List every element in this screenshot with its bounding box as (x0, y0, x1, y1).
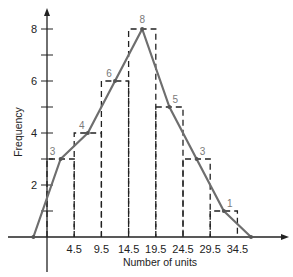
data-point (222, 209, 226, 213)
point-label: 3 (50, 146, 56, 157)
y-tick-label: 4 (31, 127, 37, 139)
point-label: 6 (106, 68, 112, 79)
x-tick-label: 24.5 (172, 243, 193, 255)
x-axis-arrow-icon (281, 234, 289, 240)
data-point (113, 79, 117, 83)
point-label: 4 (79, 120, 85, 131)
histogram-bar (47, 159, 74, 237)
polygon-line (33, 29, 251, 237)
x-tick-label: 34.5 (227, 243, 248, 255)
x-tick-label: 4.5 (67, 243, 82, 255)
y-axis-title: Frequency (12, 106, 24, 156)
y-tick-label: 6 (31, 75, 37, 87)
x-axis-title: Number of units (123, 256, 197, 268)
y-tick-label: 2 (31, 179, 37, 191)
data-point (140, 27, 144, 31)
point-labels: 3468531 (50, 14, 233, 209)
x-tick-label: 19.5 (145, 243, 166, 255)
histogram-bar (74, 133, 101, 237)
data-point (249, 235, 253, 239)
histogram-bar (183, 159, 210, 237)
x-tick-label: 9.5 (94, 243, 109, 255)
frequency-polygon-chart: 3468531 24684.59.514.519.524.529.534.5 N… (0, 0, 293, 277)
tick-labels: 24684.59.514.519.524.529.534.5 (31, 23, 248, 255)
y-tick-label: 8 (31, 23, 37, 35)
data-point (59, 157, 63, 161)
x-tick-label: 29.5 (199, 243, 220, 255)
data-point (167, 105, 171, 109)
data-point (86, 131, 90, 135)
point-label: 5 (173, 94, 179, 105)
x-tick-label: 14.5 (118, 243, 139, 255)
frequency-polygon-line (31, 27, 253, 239)
histogram-bar (101, 81, 128, 237)
data-point (195, 157, 199, 161)
point-label: 1 (227, 198, 233, 209)
y-axis-arrow-icon (44, 8, 50, 16)
point-label: 8 (139, 14, 145, 25)
data-point (31, 235, 35, 239)
point-label: 3 (200, 146, 206, 157)
histogram-bar (210, 211, 237, 237)
histogram-bar (129, 29, 156, 237)
histogram-bars (47, 29, 237, 237)
